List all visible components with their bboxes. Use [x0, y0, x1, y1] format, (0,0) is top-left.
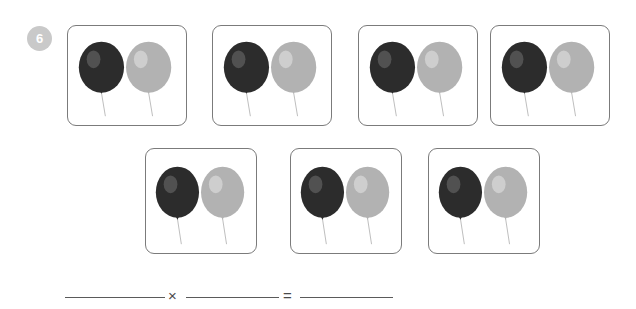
factor1-blank[interactable] — [65, 297, 165, 298]
balloon-group-4 — [491, 26, 609, 125]
balloon-body-light-icon — [346, 167, 389, 218]
balloon-group-6 — [291, 149, 401, 253]
balloon-string-icon — [572, 93, 576, 117]
product-blank[interactable] — [300, 297, 393, 298]
balloon-pair — [68, 26, 186, 125]
balloon-body-dark-icon — [439, 167, 482, 218]
balloon-string-icon — [246, 93, 250, 117]
equals-operator: = — [283, 288, 292, 303]
balloon-highlight-icon — [279, 51, 293, 69]
balloon-body-light-icon — [417, 42, 462, 93]
multiply-operator: × — [168, 288, 177, 303]
balloon-body-light-icon — [549, 42, 594, 93]
balloon-string-icon — [392, 93, 396, 117]
balloon-group-3 — [359, 26, 477, 125]
balloon-string-icon — [322, 219, 326, 245]
balloon-body-dark-icon — [301, 167, 344, 218]
balloon-group-card[interactable] — [67, 25, 187, 126]
balloon-group-1 — [68, 26, 186, 125]
balloon-string-icon — [506, 219, 510, 245]
balloon-pair — [291, 149, 401, 253]
balloon-string-icon — [440, 93, 444, 117]
balloon-highlight-icon — [557, 51, 571, 69]
balloon-string-icon — [368, 219, 372, 245]
factor2-blank[interactable] — [186, 297, 279, 298]
balloon-string-icon — [101, 93, 105, 117]
balloon-body-dark-icon — [156, 167, 199, 218]
balloon-body-light-icon — [484, 167, 527, 218]
balloon-highlight-icon — [447, 175, 461, 193]
balloon-group-card[interactable] — [212, 25, 332, 126]
balloon-string-icon — [524, 93, 528, 117]
balloon-string-icon — [294, 93, 298, 117]
balloon-highlight-icon — [492, 175, 506, 193]
balloon-highlight-icon — [209, 175, 223, 193]
balloon-body-dark-icon — [224, 42, 269, 93]
balloon-string-icon — [223, 219, 227, 245]
balloon-group-2 — [213, 26, 331, 125]
balloon-highlight-icon — [164, 175, 178, 193]
balloon-string-icon — [177, 219, 181, 245]
balloon-highlight-icon — [232, 51, 246, 69]
balloon-string-icon — [460, 219, 464, 245]
balloon-pair — [491, 26, 609, 125]
balloon-highlight-icon — [134, 51, 148, 69]
balloon-highlight-icon — [309, 175, 323, 193]
balloon-group-5 — [146, 149, 256, 253]
balloon-body-light-icon — [126, 42, 171, 93]
balloon-highlight-icon — [425, 51, 439, 69]
balloon-body-light-icon — [271, 42, 316, 93]
balloon-group-card[interactable] — [145, 148, 257, 254]
balloon-group-card[interactable] — [428, 148, 540, 254]
balloon-pair — [429, 149, 539, 253]
balloon-pair — [213, 26, 331, 125]
balloon-body-light-icon — [201, 167, 244, 218]
equation-row: × = — [0, 276, 636, 304]
balloon-highlight-icon — [87, 51, 101, 69]
worksheet-page: 6 — [0, 0, 636, 309]
balloon-group-card[interactable] — [358, 25, 478, 126]
balloon-string-icon — [149, 93, 153, 117]
balloon-highlight-icon — [510, 51, 524, 69]
balloon-body-dark-icon — [370, 42, 415, 93]
balloon-group-card[interactable] — [490, 25, 610, 126]
balloon-highlight-icon — [378, 51, 392, 69]
balloon-pair — [146, 149, 256, 253]
balloon-highlight-icon — [354, 175, 368, 193]
balloon-group-card[interactable] — [290, 148, 402, 254]
balloon-body-dark-icon — [502, 42, 547, 93]
question-number-badge: 6 — [27, 26, 52, 51]
balloon-body-dark-icon — [79, 42, 124, 93]
balloon-group-7 — [429, 149, 539, 253]
balloon-pair — [359, 26, 477, 125]
